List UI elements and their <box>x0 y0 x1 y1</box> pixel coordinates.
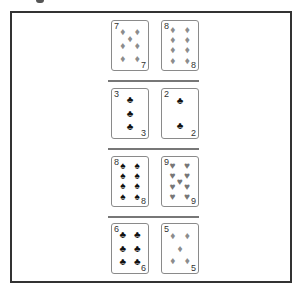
card-rank-top: 2 <box>164 89 169 99</box>
card-rank-bottom: 3 <box>141 128 146 138</box>
card[interactable]: 8 8 ♦♦♦♦♦♦♦♦ <box>161 20 199 71</box>
row-divider <box>108 148 199 150</box>
spades-pip-icon: ♠ <box>132 192 142 202</box>
diamonds-pip-icon: ♦ <box>182 231 192 241</box>
diamonds-pip-icon: ♦ <box>182 256 192 266</box>
clubs-pip-icon: ♣ <box>118 244 128 254</box>
clubs-pip-icon: ♣ <box>125 95 135 105</box>
diamonds-pip-icon: ♦ <box>132 41 142 51</box>
clubs-pip-icon: ♣ <box>175 96 185 106</box>
diamonds-pip-icon: ♦ <box>118 41 128 51</box>
card[interactable]: 6 6 ♣♣♣♣♣♣ <box>111 223 149 274</box>
card[interactable]: 7 7 ♦♦♦♦♦♦♦ <box>111 20 149 71</box>
row-divider <box>108 80 199 82</box>
hearts-pip-icon: ♥ <box>168 192 178 202</box>
card-rank-bottom: 2 <box>191 128 196 138</box>
cropped-mark <box>36 0 44 3</box>
row-divider <box>108 216 199 218</box>
card[interactable]: 5 5 ♦♦♦♦♦ <box>161 223 199 274</box>
card-row-4: 6 6 ♣♣♣♣♣♣ 5 5 ♦♦♦♦♦ <box>12 223 290 277</box>
clubs-pip-icon: ♣ <box>132 244 142 254</box>
clubs-pip-icon: ♣ <box>125 109 135 119</box>
card[interactable]: 2 2 ♣♣ <box>161 88 199 139</box>
diamonds-pip-icon: ♦ <box>168 231 178 241</box>
diamonds-pip-icon: ♦ <box>132 54 142 64</box>
card-row-3: 8 8 ♠♠♠♠♠♠♠♠ 9 9 ♥♥♥♥♥♥♥♥♥ <box>12 156 290 210</box>
spades-pip-icon: ♠ <box>118 192 128 202</box>
hearts-pip-icon: ♥ <box>182 192 192 202</box>
card[interactable]: 9 9 ♥♥♥♥♥♥♥♥♥ <box>161 156 199 207</box>
card[interactable]: 3 3 ♣♣♣ <box>111 88 149 139</box>
clubs-pip-icon: ♣ <box>132 257 142 267</box>
clubs-pip-icon: ♣ <box>118 257 128 267</box>
diamonds-pip-icon: ♦ <box>175 244 185 254</box>
diamonds-pip-icon: ♦ <box>182 56 192 66</box>
diamonds-pip-icon: ♦ <box>168 56 178 66</box>
diamonds-pip-icon: ♦ <box>118 54 128 64</box>
clubs-pip-icon: ♣ <box>118 230 128 240</box>
card-row-2: 3 3 ♣♣♣ 2 2 ♣♣ <box>12 88 290 142</box>
card-rank-top: 3 <box>114 89 119 99</box>
clubs-pip-icon: ♣ <box>125 122 135 132</box>
card[interactable]: 8 8 ♠♠♠♠♠♠♠♠ <box>111 156 149 207</box>
game-board: 7 7 ♦♦♦♦♦♦♦ 8 8 ♦♦♦♦♦♦♦♦ 3 3 ♣♣♣ 2 2 ♣♣ … <box>10 11 292 283</box>
card-row-1: 7 7 ♦♦♦♦♦♦♦ 8 8 ♦♦♦♦♦♦♦♦ <box>12 20 290 74</box>
clubs-pip-icon: ♣ <box>132 230 142 240</box>
clubs-pip-icon: ♣ <box>175 121 185 131</box>
diamonds-pip-icon: ♦ <box>168 256 178 266</box>
